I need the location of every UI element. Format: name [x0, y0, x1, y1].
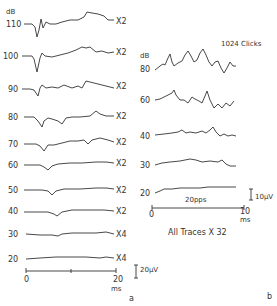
trace-a-50: [24, 188, 114, 195]
trace-a-90: [22, 81, 114, 96]
trace-b-80: [155, 49, 236, 73]
trace-a-30: [26, 232, 114, 236]
waveform-traces: [0, 0, 277, 306]
trace-b-30: [155, 159, 236, 166]
trace-b-60: [155, 90, 234, 108]
trace-a-110: [24, 12, 114, 37]
trace-a-20: [26, 257, 114, 259]
trace-a-40: [24, 210, 114, 216]
trace-a-100: [22, 47, 114, 72]
panel-b-time-axis: [152, 205, 244, 210]
trace-a-60: [24, 162, 114, 170]
trace-b-40: [155, 127, 236, 136]
panel-b-scale-bar: [249, 189, 253, 200]
trace-b-20: [155, 187, 236, 193]
trace-a-70: [24, 138, 114, 151]
panel-a-time-axis: [26, 268, 116, 273]
panel-a-scale-bar: [134, 265, 138, 278]
trace-a-80: [24, 111, 114, 127]
